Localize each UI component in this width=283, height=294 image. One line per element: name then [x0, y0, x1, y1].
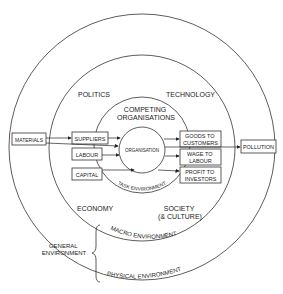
politics-label: POLITICS — [78, 91, 110, 98]
macro-environment-label: MACRO ENVIRONMENT — [110, 225, 178, 240]
society-label: SOCIETY (& CULTURE) — [158, 205, 202, 221]
general-environment-label: GENERAL ENVIRONMENT — [42, 243, 87, 256]
suppliers-label: SUPPLIERS — [75, 136, 106, 142]
physical-environment-label: PHYSICAL ENVIRONMENT — [107, 266, 183, 280]
technology-label: TECHNOLOGY — [166, 91, 215, 98]
goods-label: GOODS TO CUSTOMERS — [183, 133, 218, 146]
profit-label: PROFIT TO INVESTORS — [185, 169, 217, 182]
organisation-label: ORGANISATION — [125, 148, 159, 153]
environment-diagram: POLITICS TECHNOLOGY ECONOMY SOCIETY (& C… — [0, 0, 283, 294]
competing-organisations-label: COMPETING ORGANISATIONS — [117, 106, 175, 121]
materials-label: MATERIALS — [15, 137, 44, 143]
pollution-label: POLLUTION — [243, 144, 274, 150]
labour-label: LABOUR — [76, 152, 99, 158]
wage-label: WAGE TO LABOUR — [187, 151, 214, 164]
economy-label: ECONOMY — [77, 205, 114, 212]
capital-label: CAPITAL — [76, 172, 99, 178]
general-environment-brace — [92, 225, 100, 282]
